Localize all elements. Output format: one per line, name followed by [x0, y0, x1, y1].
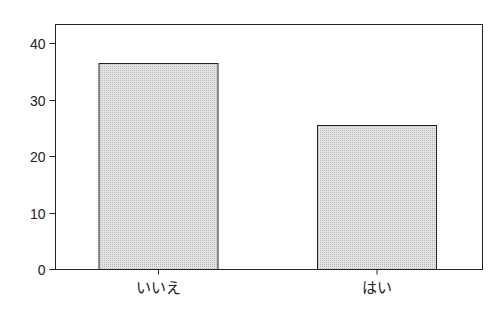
x-axis: いいえはい [136, 270, 392, 298]
y-tick-label: 10 [30, 206, 46, 222]
bar-chart: 010203040 いいえはい [0, 0, 503, 319]
bar [99, 64, 218, 270]
y-tick-label: 0 [38, 262, 46, 278]
y-tick-label: 30 [30, 93, 46, 109]
y-tick-label: 40 [30, 36, 46, 52]
bar [318, 126, 437, 270]
y-axis: 010203040 [30, 36, 56, 278]
x-category-label: はい [362, 279, 392, 297]
x-category-label: いいえ [136, 279, 181, 297]
y-tick-label: 20 [30, 149, 46, 165]
